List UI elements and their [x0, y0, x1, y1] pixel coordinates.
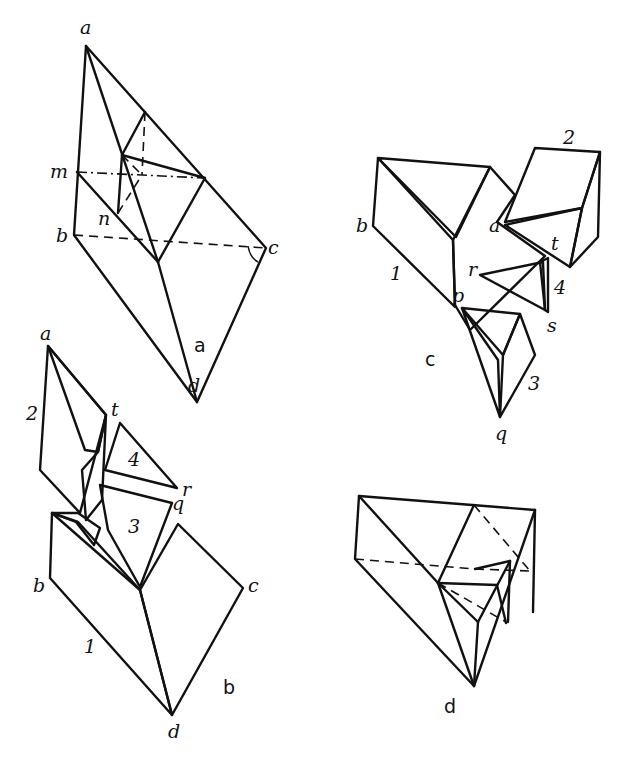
vertex-label-b: b [33, 574, 45, 596]
vertex-label-q: q [172, 492, 184, 514]
vertex-label-q: q [495, 422, 507, 444]
vertex-label-a: a [40, 322, 51, 344]
panel-d: d [355, 496, 535, 717]
piece-label-1: 1 [390, 262, 402, 284]
panel-caption-c: c [425, 348, 435, 370]
vertex-label-c: c [248, 574, 259, 596]
panel-b: a 2 t 4 r q 3 b c 1 d b [25, 322, 259, 742]
panel-c: 2 b a t 1 r 4 p s 3 q c [356, 126, 600, 444]
vertex-label-b: b [356, 214, 368, 236]
vertex-label-p: p [452, 284, 464, 306]
panel-a: a m n b c d a [50, 16, 279, 402]
panel-caption-a: a [194, 334, 206, 356]
panel-caption-d: d [444, 695, 456, 717]
vertex-label-s: s [547, 314, 557, 336]
vertex-label-r: r [468, 258, 479, 280]
vertex-label-b: b [56, 224, 68, 246]
vertex-label-a: a [80, 16, 91, 38]
vertex-label-n: n [98, 207, 110, 229]
piece-label-4: 4 [553, 276, 566, 298]
piece-label-3: 3 [528, 372, 540, 394]
vertex-label-c: c [268, 236, 279, 258]
vertex-label-m: m [50, 160, 68, 182]
piece-label-4: 4 [127, 448, 140, 470]
vertex-label-a: a [489, 214, 500, 236]
piece-label-1: 1 [84, 635, 96, 657]
panel-caption-b: b [223, 676, 235, 698]
piece-label-2: 2 [25, 402, 38, 424]
piece-label-2: 2 [562, 126, 575, 148]
vertex-label-t: t [111, 398, 119, 420]
vertex-label-d: d [168, 720, 180, 742]
vertex-label-d: d [188, 374, 200, 396]
prism-dissection-figure: a m n b c d a a 2 t 4 r q 3 b c 1 d b [0, 0, 636, 773]
piece-label-3: 3 [128, 515, 140, 537]
vertex-label-t: t [551, 232, 559, 254]
